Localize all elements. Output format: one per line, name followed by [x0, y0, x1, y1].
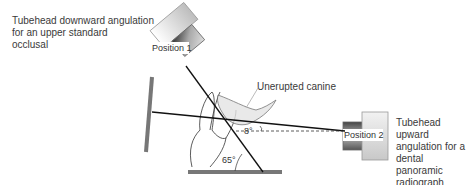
- leader-line: [246, 88, 258, 108]
- unerupted-canine-shape: [217, 95, 276, 125]
- film-vertical: [146, 77, 152, 152]
- position-2-label: Position 2: [344, 130, 384, 140]
- angle-8-label: 8°: [244, 126, 253, 136]
- angle-65-label: 65°: [222, 155, 236, 165]
- position-1-label: Position 1: [152, 43, 192, 53]
- radiography-diagram: Position 1 Position 2 8° 65°: [0, 0, 472, 185]
- angle-arc-65: [235, 154, 242, 171]
- angle-arc-8: [260, 126, 262, 131]
